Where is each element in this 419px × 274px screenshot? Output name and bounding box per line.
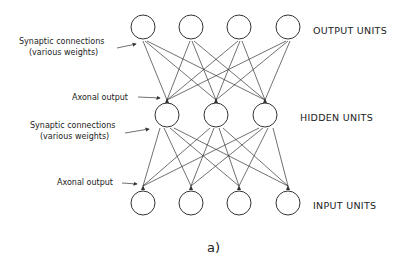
hidden-unit: [204, 103, 228, 127]
input-unit: [131, 191, 155, 215]
synaptic-top-label-line1: Synaptic connections: [19, 37, 104, 46]
axonal-bottom-arrow: [122, 183, 137, 184]
output-unit: [276, 15, 300, 39]
hidden-unit: [253, 103, 277, 127]
synaptic-bottom-label-line1: Synaptic connections: [30, 121, 115, 130]
synaptic-top-arrow: [117, 44, 136, 48]
output-unit: [131, 15, 155, 39]
synaptic-bottom-arrow: [125, 129, 149, 133]
output-unit: [179, 15, 203, 39]
synaptic-top-label-line2: (various weights): [29, 48, 98, 57]
input-unit: [179, 191, 203, 215]
hidden-layer: [155, 103, 277, 127]
input-unit: [227, 191, 251, 215]
output-units-label: OUTPUT UNITS: [313, 25, 387, 36]
output-unit: [227, 15, 251, 39]
input-unit: [276, 191, 300, 215]
axonal-bottom-label: Axonal output: [57, 178, 113, 187]
neural-network-diagram: OUTPUT UNITS HIDDEN UNITS INPUT UNITS Sy…: [0, 0, 419, 274]
hidden-units-label: HIDDEN UNITS: [300, 112, 373, 123]
edges-input-to-hidden: [143, 128, 288, 186]
axonal-top-arrow: [138, 97, 160, 98]
figure-caption: a): [207, 240, 220, 255]
synaptic-bottom-label-line2: (various weights): [40, 132, 109, 141]
output-layer: [131, 15, 300, 39]
input-layer: [131, 191, 300, 215]
hidden-unit: [155, 103, 179, 127]
edges-hidden-to-output: [143, 41, 290, 100]
axonal-top-label: Axonal output: [72, 93, 128, 102]
input-units-label: INPUT UNITS: [313, 200, 376, 211]
